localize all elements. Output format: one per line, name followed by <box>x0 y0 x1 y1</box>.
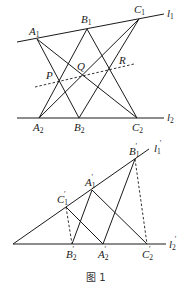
label-l1: l1 <box>167 7 174 21</box>
segment-B1-C2 <box>87 29 137 118</box>
segment-A1-B2 <box>37 39 79 118</box>
label-Q: Q <box>77 60 85 72</box>
label-A1-prime: A1′ <box>84 173 96 190</box>
segment-A1p-B2p <box>72 190 92 244</box>
label-B2: B2 <box>74 121 85 135</box>
segment-C1-A2 <box>39 19 139 118</box>
segment-B1p-C2p <box>135 159 147 244</box>
segment-A1p-C2p <box>92 190 147 244</box>
label-C2-prime: C2′ <box>142 245 153 262</box>
label-C2: C2 <box>132 121 143 135</box>
label-P: P <box>45 69 53 81</box>
label-l2-prime: l2′ <box>169 235 177 252</box>
label-C1-prime: C1′ <box>57 190 68 207</box>
label-C1: C1 <box>134 3 145 17</box>
label-B1: B1 <box>81 13 92 27</box>
label-B1-prime: B1′ <box>129 142 140 159</box>
segment-B1p-A2p <box>103 159 135 244</box>
label-l1-prime: l1′ <box>154 139 162 156</box>
pappus-theorem-figure: A1 B1 C1 l1 P Q R A2 B2 C2 l2 B1′ l1′ A1… <box>0 0 189 293</box>
label-R: R <box>118 54 126 66</box>
top-figure: A1 B1 C1 l1 P Q R A2 B2 C2 l2 <box>17 3 174 135</box>
bottom-figure: B1′ l1′ A1′ C1′ B2′ A2′ C2′ l2′ <box>13 139 177 262</box>
segment-C1-B2 <box>79 19 139 118</box>
label-A2: A2 <box>32 121 44 135</box>
label-A2-prime: A2′ <box>97 245 109 262</box>
label-l2: l2 <box>167 111 174 125</box>
label-A1: A1 <box>28 25 40 39</box>
line-l1-prime <box>13 149 149 244</box>
figure-caption: 图 1 <box>86 272 106 283</box>
label-B2-prime: B2′ <box>66 245 77 262</box>
